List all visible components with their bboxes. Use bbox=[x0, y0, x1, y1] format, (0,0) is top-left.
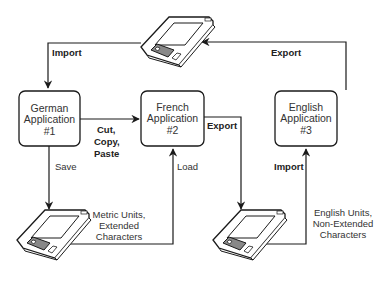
french-line3: #2 bbox=[167, 124, 179, 136]
node-french-application[interactable]: French Application #2 bbox=[141, 91, 204, 146]
save-label: Save bbox=[55, 161, 77, 172]
german-line3: #1 bbox=[44, 125, 56, 137]
export-label-french: Export bbox=[207, 120, 238, 131]
english-units-note-line1: English Units, bbox=[314, 207, 372, 218]
data-flow-diagram: German Application #1 French Application… bbox=[0, 0, 390, 283]
english-units-note-line2: Non-Extended bbox=[313, 218, 374, 229]
paste-label: Paste bbox=[94, 148, 119, 159]
cut-label: Cut, bbox=[97, 124, 115, 135]
metric-note-line1: Metric Units, bbox=[93, 209, 146, 220]
import-label-english: Import bbox=[274, 161, 304, 172]
french-line2: Application bbox=[147, 112, 199, 124]
node-german-application[interactable]: German Application #1 bbox=[19, 91, 80, 146]
german-line2: Application bbox=[24, 113, 76, 125]
metric-note-line2: Extended bbox=[99, 220, 139, 231]
export-label-top: Export bbox=[271, 47, 302, 58]
english-line2: Application bbox=[280, 112, 332, 124]
load-label: Load bbox=[177, 161, 198, 172]
node-english-application[interactable]: English Application #3 bbox=[275, 91, 337, 146]
copy-label: Copy, bbox=[94, 136, 120, 147]
metric-note-line3: Characters bbox=[96, 231, 143, 242]
floppy-disk-icon-metric bbox=[17, 210, 91, 260]
english-line3: #3 bbox=[300, 124, 312, 136]
floppy-disk-icon-english-units bbox=[213, 210, 287, 260]
import-label-top: Import bbox=[52, 47, 82, 58]
english-units-note-line3: Characters bbox=[320, 229, 367, 240]
